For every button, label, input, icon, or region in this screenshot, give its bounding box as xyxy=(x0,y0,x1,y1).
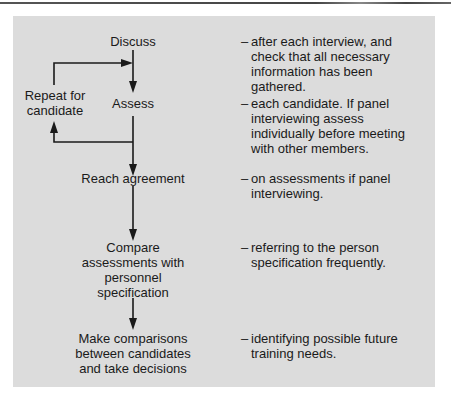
note-dash: – xyxy=(241,96,248,111)
step-make-comparisons: Make comparisons between candidates and … xyxy=(73,331,193,376)
step-label: Reach agreement xyxy=(81,171,184,186)
note-dash: – xyxy=(241,240,248,255)
step-label: Make comparisons between candidates and … xyxy=(75,331,191,376)
step-label: Assess xyxy=(112,96,154,111)
note-text: identifying possible future training nee… xyxy=(241,331,411,361)
loop-arrow-into-main xyxy=(54,59,133,85)
note-reach-agreement: – on assessments if panel interviewing. xyxy=(241,171,411,201)
arrow-compare-to-decide xyxy=(129,298,137,330)
loop-label-text: Repeat for candidate xyxy=(25,88,86,118)
step-compare-assessments: Compare assessments with personnel speci… xyxy=(68,240,198,300)
note-text: referring to the person specification fr… xyxy=(241,240,411,270)
note-dash: – xyxy=(241,34,248,49)
step-label: Compare assessments with personnel speci… xyxy=(82,240,185,300)
note-text: after each interview, and check that all… xyxy=(241,34,411,94)
note-text: on assessments if panel interviewing. xyxy=(241,171,411,201)
note-discuss: – after each interview, and check that a… xyxy=(241,34,411,94)
loop-arrow-back-to-repeat xyxy=(50,121,133,142)
arrow-assess-to-agreement xyxy=(129,116,137,176)
note-dash: – xyxy=(241,331,248,346)
note-text: each candidate. If panel interviewing as… xyxy=(241,96,411,156)
note-make-comparisons: – identifying possible future training n… xyxy=(241,331,411,361)
loop-label-repeat: Repeat for candidate xyxy=(20,88,90,118)
step-label: Discuss xyxy=(110,34,156,49)
arrow-discuss-to-assess xyxy=(129,50,137,93)
note-assess: – each candidate. If panel interviewing … xyxy=(241,96,411,156)
note-compare: – referring to the person specification … xyxy=(241,240,411,270)
step-reach-agreement: Reach agreement xyxy=(58,171,208,186)
arrow-agreement-to-compare xyxy=(129,186,137,241)
step-discuss: Discuss xyxy=(58,34,208,49)
note-dash: – xyxy=(241,171,248,186)
